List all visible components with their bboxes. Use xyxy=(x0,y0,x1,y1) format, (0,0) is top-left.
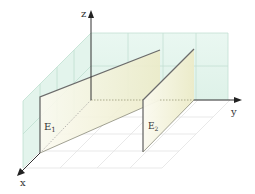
plane-e2-letter: E xyxy=(148,121,155,131)
y-axis-label: y xyxy=(230,106,237,117)
plane-e2-subscript: 2 xyxy=(155,125,159,132)
y-axis-arrow-icon xyxy=(234,97,242,103)
plane-e1-subscript: 1 xyxy=(51,126,55,134)
coordinate-diagram: z y x E1 E2 xyxy=(0,0,255,194)
z-axis-arrow-icon xyxy=(88,10,94,18)
z-axis-label: z xyxy=(81,8,86,19)
x-axis-label: x xyxy=(20,177,26,188)
plane-e1-letter: E xyxy=(44,121,51,132)
